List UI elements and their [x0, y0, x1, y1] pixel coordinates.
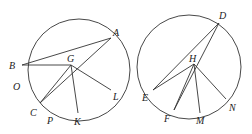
point-label-E: E — [141, 92, 148, 103]
point-label-F: F — [163, 113, 171, 124]
geometry-diagram: ABOCPKLGDEFMNH — [0, 0, 252, 134]
point-label-D: D — [218, 10, 227, 21]
point-label-A: A — [112, 27, 120, 38]
point-label-C: C — [30, 107, 37, 118]
point-label-L: L — [112, 91, 119, 102]
point-label-B: B — [9, 60, 15, 71]
figure-left: ABOCPKLG — [9, 19, 130, 127]
segment-GL — [71, 65, 111, 90]
segment-GK — [71, 65, 78, 113]
segment-GC — [40, 65, 71, 103]
segment-HN — [194, 64, 226, 99]
point-label-P: P — [46, 115, 53, 126]
point-label-N: N — [228, 102, 237, 113]
segment-HF — [174, 64, 194, 110]
point-label-K: K — [73, 116, 82, 127]
point-label-O: O — [13, 81, 20, 92]
segment-HM — [194, 64, 200, 113]
point-label-H: H — [188, 53, 197, 64]
segment-EH — [153, 64, 194, 90]
figure-right: DEFMNH — [137, 10, 241, 126]
point-label-M: M — [195, 115, 205, 126]
point-label-G: G — [67, 53, 74, 64]
